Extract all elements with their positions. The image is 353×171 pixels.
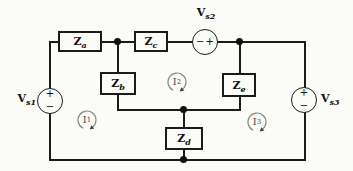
impedance-zc: Zc (134, 31, 168, 52)
mesh-current-i1: I1 (75, 108, 101, 134)
vs3-label: Vs3 (321, 93, 351, 104)
zb-label: Zb (111, 78, 125, 89)
vs1-plus-sign: + (46, 90, 54, 98)
ze-label: Ze (232, 80, 245, 91)
impedance-zd: Zd (165, 127, 203, 150)
junction-dot-zd-bottom (180, 156, 187, 163)
impedance-zb: Zb (100, 72, 136, 95)
zd-label: Zd (177, 133, 191, 144)
i1-label: I1 (75, 108, 99, 132)
impedance-za: Za (58, 31, 102, 52)
vs2-minus-sign: − (196, 38, 204, 46)
source-vs3: + − (291, 87, 317, 113)
i2-label: I2 (165, 70, 189, 94)
wire-middle (117, 109, 241, 111)
vs1-label: Vs1 (10, 93, 36, 104)
vs2-plus-sign: + (206, 38, 214, 46)
junction-dot-vs2-right (236, 38, 243, 45)
vs1-minus-sign: − (46, 103, 54, 111)
mesh-current-i2: I2 (165, 70, 191, 96)
junction-dot-zd-top (180, 106, 187, 113)
wire-bottom (49, 159, 306, 161)
zc-label: Zc (145, 36, 158, 47)
source-vs1: + − (37, 88, 63, 114)
circuit-diagram: Za Zc Zb Ze Zd + − − + + − Vs1 Vs2 Vs3 (0, 0, 353, 171)
junction-dot-za-zc (114, 38, 121, 45)
vs3-plus-sign: + (300, 89, 308, 97)
source-vs2: − + (192, 29, 218, 55)
vs2-label: Vs2 (189, 7, 223, 18)
impedance-ze: Ze (222, 73, 256, 97)
mesh-current-i3: I3 (245, 110, 271, 136)
vs3-minus-sign: − (300, 102, 308, 110)
za-label: Za (73, 36, 86, 47)
i3-label: I3 (245, 110, 269, 134)
